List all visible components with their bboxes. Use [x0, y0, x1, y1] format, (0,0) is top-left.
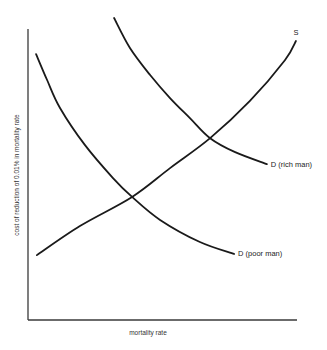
x-axis-title: mortality rate [129, 329, 167, 337]
curve-d-rich-man [114, 18, 267, 164]
curve-label-s: S [293, 28, 298, 37]
chart: SD (poor man)D (rich man) mortality rate… [0, 0, 327, 350]
curve-labels-group: SD (poor man)D (rich man) [238, 28, 313, 258]
curve-label-d-rich-man: D (rich man) [271, 160, 313, 169]
curve-d-poor-man [36, 54, 234, 254]
curves-group [36, 18, 296, 255]
curve-label-d-poor-man: D (poor man) [238, 249, 283, 258]
y-axis-title: cost of reduction of 0.01% in mortality … [13, 114, 21, 236]
